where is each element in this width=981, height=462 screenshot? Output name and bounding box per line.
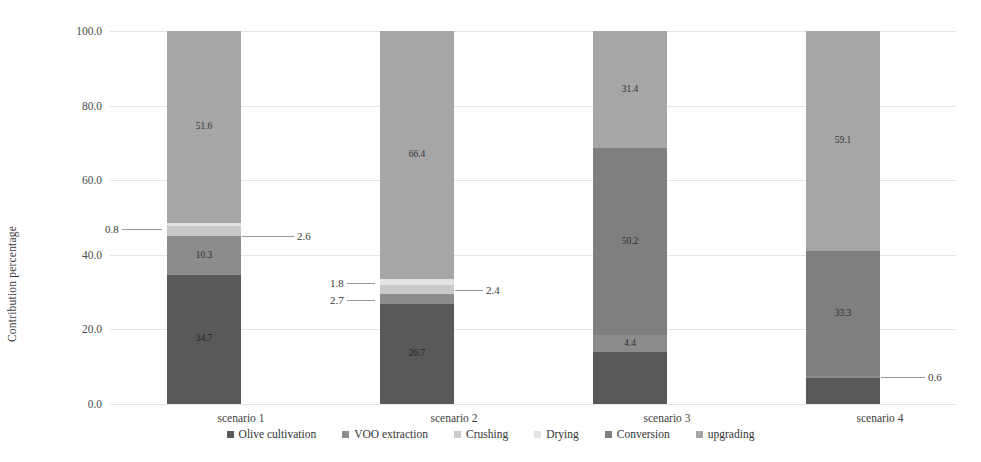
bar-segment-value: 4.4 bbox=[624, 339, 636, 349]
legend-swatch-icon bbox=[696, 431, 703, 438]
gridline bbox=[110, 404, 956, 405]
x-axis-label-1: scenario 1 bbox=[171, 412, 311, 424]
legend-label: Olive cultivation bbox=[239, 428, 317, 440]
legend-label: upgrading bbox=[708, 428, 755, 440]
legend-label: Crushing bbox=[466, 428, 508, 440]
legend-swatch-icon bbox=[227, 431, 234, 438]
y-axis-tick-label: 100.0 bbox=[76, 25, 102, 37]
bar-segment-upgrading[interactable]: 51.6 bbox=[167, 31, 241, 223]
callout-leader-line bbox=[881, 377, 925, 378]
callout-c4-voo: 0.6 bbox=[928, 371, 942, 383]
bar-segment-olive-cultivation[interactable]: 34.7 bbox=[167, 275, 241, 404]
y-axis-title-label: Contribution percentage bbox=[6, 226, 18, 342]
bar-segment-value: 59.1 bbox=[835, 136, 852, 146]
plot-area: 0.020.040.060.080.0100.051.610.334.7scen… bbox=[110, 31, 956, 404]
callout-c2-voo: 2.7 bbox=[330, 294, 344, 306]
legend-label: VOO extraction bbox=[354, 428, 428, 440]
callout-c2-drying: 1.8 bbox=[330, 277, 344, 289]
legend-swatch-icon bbox=[342, 431, 349, 438]
bar-segment-voo-extraction[interactable] bbox=[380, 294, 454, 304]
callout-c1-crushing: 2.6 bbox=[297, 230, 311, 242]
callout-c1-drying: 0.8 bbox=[105, 223, 119, 235]
bar-segment-voo-extraction[interactable]: 10.3 bbox=[167, 236, 241, 274]
bar-segment-value: 31.4 bbox=[622, 85, 639, 95]
bar-segment-conversion[interactable]: 33.3 bbox=[806, 251, 880, 375]
chart-legend: Olive cultivationVOO extractionCrushingD… bbox=[0, 428, 981, 440]
bar-segment-olive-cultivation[interactable]: 26.7 bbox=[380, 304, 454, 404]
legend-item-voo-extraction[interactable]: VOO extraction bbox=[342, 428, 428, 440]
x-axis-label-4: scenario 4 bbox=[810, 412, 950, 424]
legend-swatch-icon bbox=[454, 431, 461, 438]
callout-leader-line bbox=[455, 290, 483, 291]
callout-leader-line bbox=[347, 300, 375, 301]
bar-segment-olive-cultivation[interactable] bbox=[593, 352, 667, 404]
legend-item-crushing[interactable]: Crushing bbox=[454, 428, 508, 440]
y-axis-tick-label: 60.0 bbox=[82, 174, 102, 186]
bar-segment-upgrading[interactable]: 66.4 bbox=[380, 31, 454, 279]
bar-segment-drying[interactable] bbox=[380, 279, 454, 286]
bar-segment-value: 10.3 bbox=[196, 251, 213, 261]
legend-swatch-icon bbox=[605, 431, 612, 438]
x-axis-label-3: scenario 3 bbox=[597, 412, 737, 424]
y-axis-tick-label: 40.0 bbox=[82, 249, 102, 261]
bar-segment-value: 26.7 bbox=[409, 349, 426, 359]
bar-4[interactable]: 59.133.3scenario 4 bbox=[806, 31, 880, 404]
callout-c2-crushing: 2.4 bbox=[486, 284, 500, 296]
bar-segment-upgrading[interactable]: 31.4 bbox=[593, 31, 667, 148]
x-axis-label-2: scenario 2 bbox=[384, 412, 524, 424]
bar-segment-olive-cultivation[interactable] bbox=[806, 378, 880, 404]
bar-3[interactable]: 31.450.24.4scenario 3 bbox=[593, 31, 667, 404]
callout-leader-line bbox=[242, 236, 294, 237]
bar-segment-value: 50.2 bbox=[622, 237, 639, 247]
legend-item-olive-cultivation[interactable]: Olive cultivation bbox=[227, 428, 317, 440]
legend-label: Drying bbox=[546, 428, 579, 440]
y-axis-tick-label: 20.0 bbox=[82, 323, 102, 335]
legend-label: Conversion bbox=[617, 428, 670, 440]
legend-item-upgrading[interactable]: upgrading bbox=[696, 428, 755, 440]
bar-segment-value: 66.4 bbox=[409, 150, 426, 160]
bar-segment-value: 51.6 bbox=[196, 122, 213, 132]
legend-swatch-icon bbox=[534, 431, 541, 438]
bar-segment-upgrading[interactable]: 59.1 bbox=[806, 31, 880, 251]
bar-segment-conversion[interactable]: 50.2 bbox=[593, 148, 667, 335]
y-axis-tick-label: 80.0 bbox=[82, 100, 102, 112]
bar-segment-crushing[interactable] bbox=[380, 285, 454, 294]
legend-item-conversion[interactable]: Conversion bbox=[605, 428, 670, 440]
bar-segment-crushing[interactable] bbox=[167, 226, 241, 236]
bar-segment-value: 33.3 bbox=[835, 309, 852, 319]
bar-1[interactable]: 51.610.334.7scenario 1 bbox=[167, 31, 241, 404]
callout-leader-line bbox=[122, 229, 162, 230]
callout-leader-line bbox=[347, 283, 375, 284]
y-axis-tick-label: 0.0 bbox=[88, 398, 102, 410]
bar-segment-voo-extraction[interactable]: 4.4 bbox=[593, 335, 667, 351]
bar-2[interactable]: 66.426.7scenario 2 bbox=[380, 31, 454, 404]
legend-item-drying[interactable]: Drying bbox=[534, 428, 579, 440]
stacked-bar-chart: Contribution percentage 0.020.040.060.08… bbox=[0, 0, 981, 462]
bar-segment-value: 34.7 bbox=[196, 334, 213, 344]
y-axis-title: Contribution percentage bbox=[6, 0, 18, 60]
